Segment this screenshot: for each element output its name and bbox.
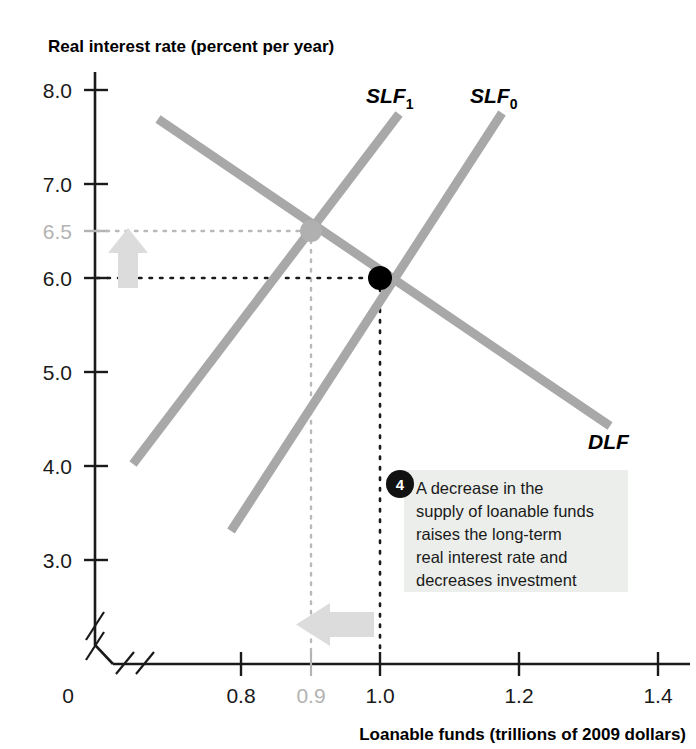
x-axis-title: Loanable funds (trillions of 2009 dollar… [359,725,686,744]
annotation-badge-number: 4 [396,476,405,493]
annotation-line-5: decreases investment [416,571,577,589]
original-equilibrium-point [368,266,392,290]
new-equilibrium-point [300,220,322,242]
x-tick-label-0: 0 [62,684,74,707]
y-tick-label-6-5: 6.5 [43,220,72,243]
x-tick-label-1-2: 1.2 [504,684,533,707]
x-tick-label-0-8: 0.8 [226,684,255,707]
y-tick-label-5: 5.0 [43,361,72,384]
x-tick-label-0-9: 0.9 [296,684,325,707]
slf0-label: SLF0 [470,84,518,112]
dlf-label: DLF [588,430,630,453]
annotation-line-2: supply of loanable funds [416,502,594,520]
slf1-curve [133,114,399,464]
y-tick-label-7: 7.0 [43,173,72,196]
x-tick-label-1-0: 1.0 [365,684,394,707]
loanable-funds-market-figure: 0%#c9c9c9 100%#787878 Real interest rate… [0,0,696,749]
annotation-line-3: raises the long-term [416,525,562,543]
x-tick-label-1-4: 1.4 [643,684,673,707]
funds-decrease-arrow-icon [296,603,374,646]
y-tick-label-8: 8.0 [43,79,72,102]
y-tick-label-4: 4.0 [43,455,72,478]
annotation-line-1: A decrease in the [416,479,544,497]
annotation-line-4: real interest rate and [416,548,567,566]
y-tick-label-6: 6.0 [43,267,72,290]
slf1-label: SLF1 [366,84,414,112]
chart-canvas: 0%#c9c9c9 100%#787878 Real interest rate… [0,0,696,749]
y-tick-label-3: 3.0 [43,549,72,572]
y-axis-title: Real interest rate (percent per year) [48,37,334,56]
